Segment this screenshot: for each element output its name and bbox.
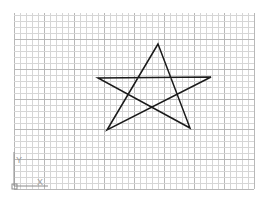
ucs-x-label: X (37, 178, 43, 187)
ucs-y-label: Y (16, 156, 22, 165)
grid (14, 13, 255, 190)
drawing-canvas[interactable] (0, 0, 261, 201)
